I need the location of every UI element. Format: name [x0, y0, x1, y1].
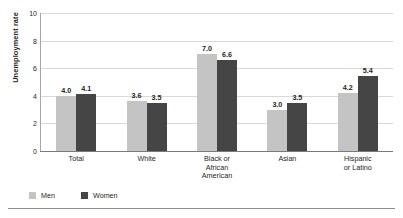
legend-label: Men	[41, 191, 55, 200]
x-tick-label: Hispanicor Latino	[323, 155, 393, 172]
bar-group: 4.04.1	[41, 13, 111, 151]
legend-swatch-icon	[29, 192, 36, 199]
legend-item-men[interactable]: Men	[29, 191, 55, 200]
y-tick-label: 4	[33, 92, 37, 99]
bar-pair: 4.25.4	[323, 13, 393, 151]
bar-pair: 3.63.5	[111, 13, 181, 151]
y-axis-title: Unemployment rate	[11, 0, 20, 118]
x-tick-label-line: White	[111, 155, 181, 164]
x-axis-labels: TotalWhiteBlack orAfricanAmericanAsianHi…	[41, 155, 393, 187]
chart-legend: MenWomen	[29, 191, 144, 200]
bar-group: 4.25.4	[323, 13, 393, 151]
legend-label: Women	[93, 191, 118, 200]
bar-group: 7.06.6	[182, 13, 252, 151]
bar-women[interactable]: 5.4	[358, 76, 378, 151]
bar-men[interactable]: 7.0	[197, 54, 217, 151]
x-tick-label: Asian	[252, 155, 322, 164]
x-tick-label-line: or Latino	[323, 164, 393, 173]
bar-women[interactable]: 3.5	[287, 103, 307, 151]
y-tick-label: 6	[33, 65, 37, 72]
bar-value-label: 3.5	[152, 93, 162, 102]
chart-figure: Unemployment rate 0246810 4.04.13.63.57.…	[0, 0, 403, 218]
x-tick-label-line: American	[182, 172, 252, 181]
bar-women[interactable]: 4.1	[76, 94, 96, 151]
legend-item-women[interactable]: Women	[81, 191, 118, 200]
y-tick-label: 2	[33, 120, 37, 127]
bar-value-label: 4.2	[343, 83, 353, 92]
bar-men[interactable]: 4.2	[338, 93, 358, 151]
x-axis-line	[40, 151, 393, 152]
y-tick-label: 0	[33, 148, 37, 155]
bar-men[interactable]: 4.0	[56, 96, 76, 151]
bar-value-label: 3.5	[292, 93, 302, 102]
bar-women[interactable]: 3.5	[147, 103, 167, 151]
bar-men[interactable]: 3.6	[127, 101, 147, 151]
x-tick-label: Total	[41, 155, 111, 164]
legend-swatch-icon	[81, 192, 88, 199]
y-tick-label: 8	[33, 37, 37, 44]
bar-pair: 4.04.1	[41, 13, 111, 151]
bar-value-label: 3.6	[132, 91, 142, 100]
bar-value-label: 7.0	[202, 44, 212, 53]
bar-value-label: 5.4	[363, 66, 373, 75]
x-tick-label: White	[111, 155, 181, 164]
y-tick-label: 10	[29, 10, 37, 17]
bar-group: 3.63.5	[111, 13, 181, 151]
bar-group: 3.03.5	[252, 13, 322, 151]
bottom-divider	[8, 208, 395, 209]
bar-men[interactable]: 3.0	[267, 110, 287, 151]
bar-value-label: 6.6	[222, 50, 232, 59]
plot-area: 0246810 4.04.13.63.57.06.63.03.54.25.4	[41, 13, 393, 151]
bar-women[interactable]: 6.6	[217, 60, 237, 151]
bar-groups: 4.04.13.63.57.06.63.03.54.25.4	[41, 13, 393, 151]
x-tick-label-line: Asian	[252, 155, 322, 164]
x-tick-label: Black orAfricanAmerican	[182, 155, 252, 181]
bar-pair: 7.06.6	[182, 13, 252, 151]
bar-value-label: 4.1	[81, 84, 91, 93]
bar-pair: 3.03.5	[252, 13, 322, 151]
bar-value-label: 4.0	[61, 86, 71, 95]
bar-value-label: 3.0	[272, 100, 282, 109]
x-tick-label-line: Total	[41, 155, 111, 164]
